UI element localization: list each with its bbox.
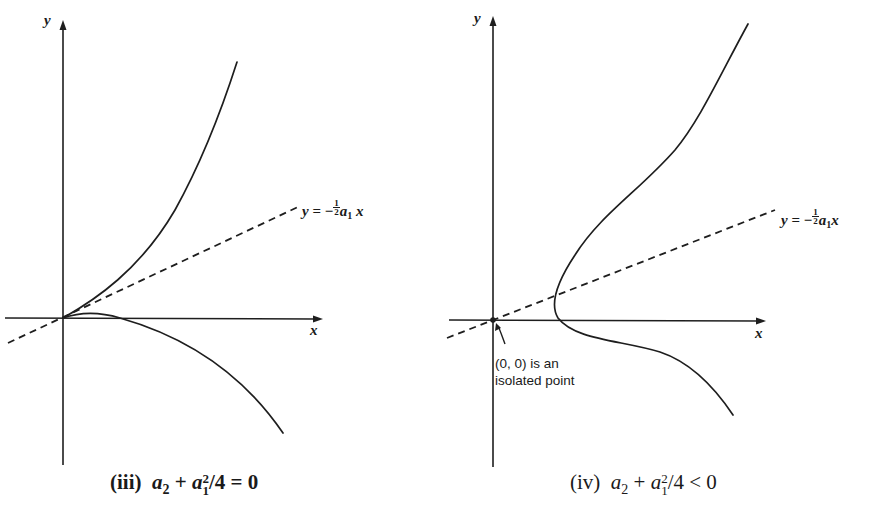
dashed-line-iii [8,207,298,343]
caption-roman-iv: (iv) [570,470,600,494]
annotation-line-1: (0, 0) is an [495,355,575,372]
y-axis-label-iv: y [474,10,481,27]
y-axis-arrow-icon-iv [490,16,497,26]
panel-iv [447,16,775,467]
x-axis-label-iv: x [755,325,763,342]
dashed-label-minus: − [325,203,334,219]
upper-branch-curve-iii [63,62,237,318]
caption-iii: (iii) a2 + a21/4 = 0 [110,470,258,498]
dashed-label-y: y [302,203,309,219]
isolated-point-annotation: (0, 0) is an isolated point [495,355,575,389]
dashed-line-label-iii: y = −12a1 x [302,199,364,221]
caption-iv: (iv) a2 + a21/4 < 0 [570,470,717,498]
isolated-point-marker [490,317,496,323]
x-axis-label-iii: x [310,322,318,339]
y-axis-arrow-icon-iii [60,20,67,30]
annotation-line-2: isolated point [495,372,575,389]
y-axis-label-iii: y [44,12,51,29]
x-axis-arrow-icon-iv [756,318,766,325]
dashed-label-x: x [356,203,364,219]
phase-diagram-figure [0,0,869,510]
main-curve-iv [554,24,748,415]
panel-iii [5,20,323,465]
lower-branch-curve-iii [63,314,283,434]
x-axis-iii [5,318,315,319]
dashed-line-label-iv: y = −12a1x [781,208,839,230]
dashed-label-equals: = [312,203,321,219]
dashed-line-iv [447,210,775,338]
caption-roman-iii: (iii) [110,470,142,494]
